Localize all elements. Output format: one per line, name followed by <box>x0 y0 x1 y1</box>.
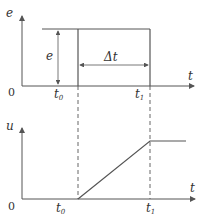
t1-label-bottom: t1 <box>146 201 155 216</box>
pulse-response-diagram: e t 0 e Δt t0 t1 u t 0 t0 t1 <box>0 0 208 221</box>
origin-label-bottom: 0 <box>8 200 15 213</box>
e-axis-label: e <box>6 6 13 20</box>
t0-label-bottom: t0 <box>56 201 66 216</box>
t-axis-label-bottom: t <box>190 181 195 195</box>
t-axis-label-top: t <box>188 69 193 83</box>
t0-label-top: t0 <box>54 87 64 102</box>
top-plot: e t 0 e Δt t0 t1 <box>6 6 194 102</box>
response-curve <box>78 141 186 199</box>
amplitude-label: e <box>46 49 53 63</box>
bottom-plot: u t 0 t0 t1 <box>6 119 195 216</box>
duration-label: Δt <box>103 50 118 64</box>
t1-label-top: t1 <box>135 87 144 102</box>
origin-label-top: 0 <box>8 86 15 99</box>
u-axis-label: u <box>6 119 14 133</box>
